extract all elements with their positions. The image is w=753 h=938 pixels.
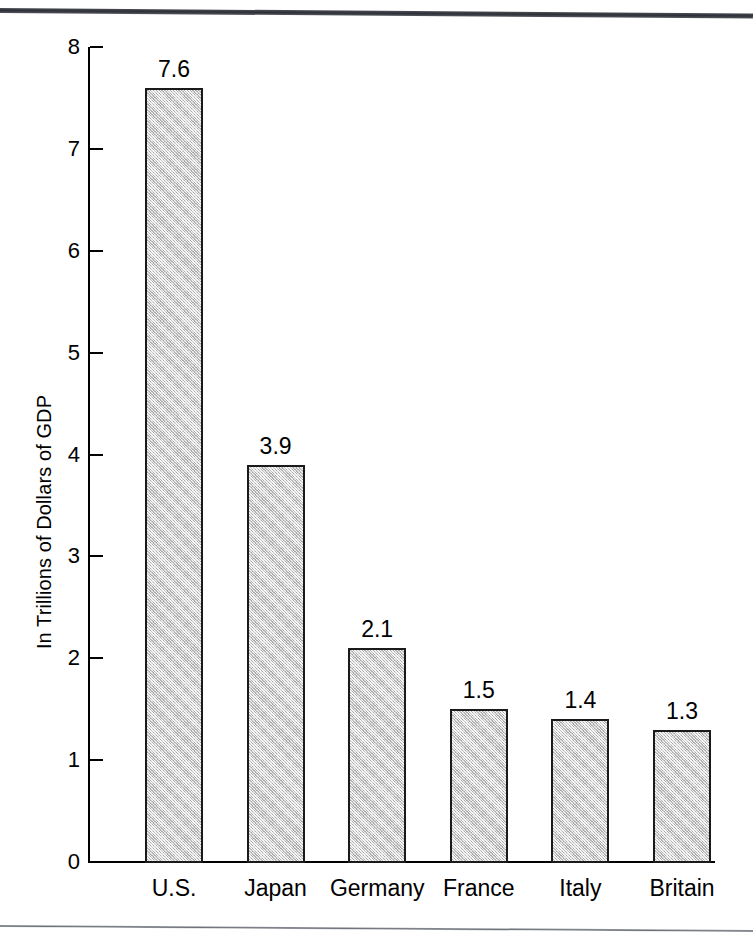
bar-value-label: 1.3 [632,700,732,723]
y-axis-tick-mark [90,759,103,761]
y-axis-tick-label-row: 7 [0,138,80,160]
chart-page: 012345678 In Trillions of Dollars of GDP… [0,0,753,938]
y-axis-tick-mark [90,250,103,252]
y-axis-tick-mark [90,657,103,659]
y-axis-tick-label-row: 6 [0,240,80,262]
y-axis-tick-label: 2 [50,647,80,669]
y-axis-tick-label-row: 0 [0,851,80,873]
y-axis-tick-label-row: 1 [0,749,80,771]
bar-value-label: 2.1 [327,618,427,641]
y-axis-tick-label-row: 5 [0,342,80,364]
bar-value-label: 7.6 [124,58,224,81]
y-axis-tick-label-row: 8 [0,36,80,58]
bar-us [145,88,203,863]
x-axis-category-label: U.S. [119,875,229,901]
y-axis-tick-mark [90,352,103,354]
bar-britain [653,730,711,863]
y-axis-tick-mark [90,46,103,48]
bar-value-label: 1.5 [429,679,529,702]
bar-france [450,709,508,863]
x-axis-category-label: Britain [627,875,737,901]
bar-value-label: 1.4 [530,689,630,712]
y-axis-tick-label: 5 [50,342,80,364]
x-axis-category-label: Italy [525,875,635,901]
y-axis-tick-label: 8 [50,36,80,58]
y-axis-tick-mark [90,861,103,863]
y-axis-tick-mark [90,555,103,557]
bar-value-label: 3.9 [226,435,326,458]
bar-germany [348,648,406,863]
y-axis-tick-label: 7 [50,138,80,160]
x-axis-category-label: France [424,875,534,901]
bar-italy [551,719,609,863]
bar-japan [247,465,305,863]
bar-chart-plot-area: 012345678 In Trillions of Dollars of GDP… [0,0,753,938]
y-axis-tick-label: 0 [50,851,80,873]
y-axis-tick-mark [90,148,103,150]
x-axis-category-label: Germany [322,875,432,901]
y-axis-tick-label: 1 [50,749,80,771]
y-axis-tick-label: 6 [50,240,80,262]
y-axis-title: In Trillions of Dollars of GDP [34,372,54,672]
y-axis-tick-mark [90,454,103,456]
x-axis-category-label: Japan [221,875,331,901]
